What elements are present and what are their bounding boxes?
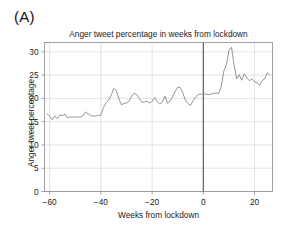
line-chart-plot: 051015202530 −60−40−20020 xyxy=(0,0,287,235)
x-tick-label: −20 xyxy=(145,197,159,207)
x-tick-label: 20 xyxy=(250,197,260,207)
y-tick-labels: 051015202530 xyxy=(29,47,39,197)
y-tick-label: 10 xyxy=(29,140,39,150)
figure-panel-a: (A) Anger tweet percentage in weeks from… xyxy=(0,0,287,235)
y-tick-label: 25 xyxy=(29,70,39,80)
x-tick-labels: −60−40−20020 xyxy=(43,197,260,207)
y-tick-label: 30 xyxy=(29,47,39,57)
y-tick-marks xyxy=(42,52,45,192)
y-tick-label: 5 xyxy=(34,163,39,173)
x-tick-label: −40 xyxy=(94,197,108,207)
y-tick-label: 0 xyxy=(34,187,39,197)
data-series-line xyxy=(47,47,270,120)
y-tick-label: 20 xyxy=(29,93,39,103)
x-tick-label: −60 xyxy=(43,197,57,207)
y-tick-label: 15 xyxy=(29,117,39,127)
x-tick-label: 0 xyxy=(201,197,206,207)
x-tick-marks xyxy=(50,192,255,195)
